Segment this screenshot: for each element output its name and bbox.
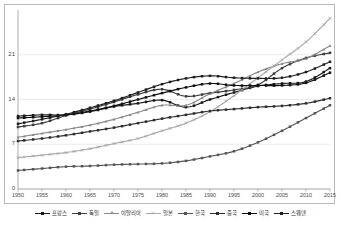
series-marker: [314, 78, 317, 81]
series-marker: [32, 138, 35, 141]
series-marker: [73, 165, 76, 168]
series-marker: [305, 71, 308, 74]
series-marker: [241, 107, 244, 110]
series-marker: [273, 77, 276, 80]
series-marker: [225, 93, 228, 96]
series-marker: [153, 119, 156, 122]
legend-item[interactable]: 이탈리아: [104, 209, 141, 217]
series-marker: [265, 84, 268, 87]
series-marker: [265, 70, 268, 73]
series-marker: [32, 116, 35, 119]
legend-item[interactable]: ×일본: [146, 209, 173, 217]
series-marker: [273, 72, 276, 75]
series-marker: [161, 88, 164, 91]
series-marker: [89, 165, 92, 168]
series-marker: [153, 99, 156, 102]
y-axis-tick-label: 7: [1, 140, 15, 146]
series-marker: [89, 110, 92, 113]
chart-legend: 프랑스독일이탈리아×일본한국중국미국스웨덴: [6, 206, 335, 220]
series-marker: [129, 163, 132, 166]
series-marker: [177, 115, 180, 118]
legend-swatch-icon: [242, 211, 257, 216]
series-marker: [161, 99, 164, 102]
chart-plot: [0, 0, 341, 234]
series-marker: [323, 63, 326, 66]
legend-item[interactable]: 중국: [210, 209, 237, 217]
series-marker: [329, 44, 332, 47]
series-marker: [233, 84, 236, 87]
series-marker: [297, 103, 300, 106]
series-marker: [217, 96, 220, 99]
legend-swatch-icon: [35, 211, 50, 216]
series-marker: [233, 150, 236, 153]
legend-item[interactable]: 독일: [72, 209, 99, 217]
series-marker: [89, 130, 92, 133]
series-marker: [193, 76, 196, 79]
series-marker: [201, 83, 204, 86]
x-axis-tick-label: 1980: [152, 192, 172, 198]
series-marker: [273, 134, 276, 137]
series-marker: [177, 161, 180, 164]
series-marker: [217, 83, 220, 86]
series-marker: [161, 162, 164, 165]
series-marker: [17, 117, 20, 120]
series-marker: [105, 106, 108, 109]
series-marker: [225, 152, 228, 155]
series-marker: [17, 169, 20, 172]
legend-item[interactable]: 미국: [242, 209, 269, 217]
series-line: [18, 18, 330, 157]
series-marker: [233, 108, 236, 111]
series-marker: [185, 95, 188, 98]
legend-item-label: 이탈리아: [120, 209, 141, 217]
series-marker: [314, 100, 317, 103]
series-marker: [113, 100, 116, 103]
series-marker: [209, 75, 212, 78]
series-marker: [193, 112, 196, 115]
series-marker: [73, 133, 76, 136]
series-marker: [23, 125, 26, 128]
series-marker: [41, 116, 44, 119]
legend-item-label: 프랑스: [51, 209, 67, 217]
series-marker: [169, 90, 172, 93]
series-marker: [329, 61, 332, 64]
series-marker: [145, 101, 148, 104]
series-marker: [97, 104, 100, 107]
series-marker: [81, 165, 84, 168]
legend-item[interactable]: 스웨덴: [274, 209, 306, 217]
series-marker: [185, 114, 188, 117]
series-marker: [297, 73, 300, 76]
series-marker: [323, 107, 326, 110]
series-marker: [81, 111, 84, 114]
series-marker: [329, 17, 332, 20]
series-marker: [314, 67, 317, 70]
series-marker: [323, 74, 326, 77]
series-marker: [305, 82, 308, 85]
series-lines: [18, 18, 330, 170]
series-marker: [249, 144, 252, 147]
y-axis-tick-label: 21: [1, 51, 15, 57]
series-marker: [257, 77, 260, 80]
series-marker: [161, 92, 164, 95]
series-marker: [305, 102, 308, 105]
series-marker: [137, 91, 140, 94]
series-marker: [23, 169, 26, 172]
series-marker: [177, 88, 180, 91]
series-marker: [169, 81, 172, 84]
chart-container: 211470 195019551960196519701975198019851…: [0, 0, 341, 234]
series-marker: [17, 123, 20, 126]
series-marker: [32, 120, 35, 123]
series-marker: [121, 125, 124, 128]
series-marker: [177, 79, 180, 82]
series-marker: [105, 102, 108, 105]
series-marker: [305, 117, 308, 120]
series-marker: [193, 84, 196, 87]
legend-item[interactable]: 한국: [178, 209, 205, 217]
series-marker: [329, 52, 332, 55]
series-marker: [121, 103, 124, 106]
legend-item[interactable]: 프랑스: [35, 209, 67, 217]
series-marker: [322, 23, 325, 26]
series-marker: [225, 76, 228, 79]
series-marker: [249, 77, 252, 80]
series-marker: [153, 89, 156, 92]
x-axis-tick-label: 2000: [248, 192, 268, 198]
